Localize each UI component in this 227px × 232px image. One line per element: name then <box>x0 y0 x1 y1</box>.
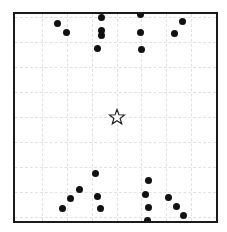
grid-line-horizontal <box>15 167 216 168</box>
dot <box>145 177 152 184</box>
dot <box>63 29 70 36</box>
grid-line-horizontal <box>15 67 216 68</box>
grid-line-horizontal <box>15 92 216 93</box>
board-frame <box>13 12 218 223</box>
dot <box>94 45 101 52</box>
grid-line-horizontal <box>15 142 216 143</box>
grid-line-horizontal <box>15 42 216 43</box>
dot <box>76 186 83 193</box>
grid-line-horizontal <box>15 192 216 193</box>
dot <box>137 29 144 36</box>
star-outline-icon[interactable] <box>108 108 126 126</box>
dot <box>54 20 61 27</box>
dot <box>142 191 149 198</box>
dot <box>180 212 187 219</box>
dot <box>138 46 145 53</box>
dot <box>98 14 105 21</box>
dot <box>94 193 101 200</box>
dot <box>145 204 152 211</box>
dot <box>67 195 74 202</box>
dot <box>97 205 104 212</box>
dot <box>144 217 151 224</box>
dot <box>59 205 66 212</box>
grid-line-horizontal <box>15 17 216 18</box>
dot <box>173 203 180 210</box>
dot <box>171 30 178 37</box>
dot <box>92 170 99 177</box>
dot <box>179 18 186 25</box>
dot <box>137 12 144 18</box>
dot <box>165 194 172 201</box>
dot <box>98 32 105 39</box>
